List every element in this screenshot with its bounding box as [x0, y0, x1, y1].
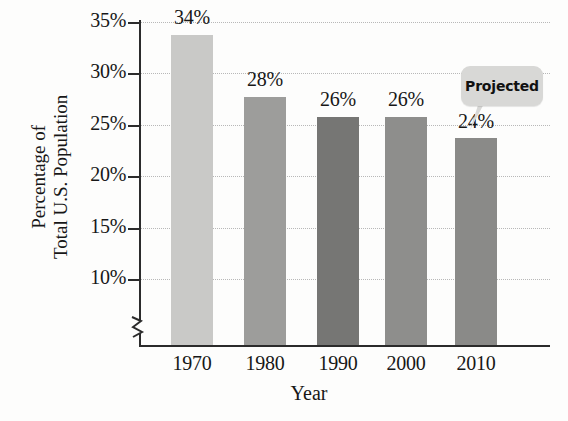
- axis-break-icon: [130, 316, 150, 338]
- x-tick-label-1980: 1980: [229, 352, 301, 375]
- y-tick-20: [128, 176, 139, 178]
- y-axis-title-line2: Total U.S. Population: [50, 67, 72, 287]
- bar-chart: 34% 28% 26% 26% 24% 35% 30% 25% 20% 15% …: [0, 0, 568, 421]
- bar-value-label-1970: 34%: [156, 6, 228, 29]
- y-tick-25: [128, 125, 139, 127]
- bar-value-label-1990: 26%: [302, 88, 374, 111]
- y-tick-label-35: 35%: [60, 9, 126, 32]
- x-tick-label-2010: 2010: [440, 352, 512, 375]
- y-axis-line: [139, 20, 141, 320]
- bar-1980[interactable]: [244, 97, 286, 346]
- x-tick-label-1990: 1990: [302, 352, 374, 375]
- projected-callout[interactable]: Projected: [461, 66, 543, 106]
- bar-2000[interactable]: [385, 117, 427, 346]
- y-tick-15: [128, 228, 139, 230]
- x-axis-title-text: Year: [291, 382, 328, 404]
- y-axis-title: Percentage of Total U.S. Population: [28, 67, 72, 287]
- bar-value-label-1980: 28%: [229, 68, 301, 91]
- x-tick-label-1970: 1970: [156, 352, 228, 375]
- x-tick-label-2000: 2000: [370, 352, 442, 375]
- y-tick-35: [128, 22, 139, 24]
- bar-1990[interactable]: [317, 117, 359, 346]
- y-tick-10: [128, 279, 139, 281]
- y-tick-30: [128, 73, 139, 75]
- y-axis-title-line1: Percentage of: [28, 67, 50, 287]
- bar-1970[interactable]: [171, 35, 213, 346]
- bar-value-label-2000: 26%: [370, 88, 442, 111]
- projected-callout-label: Projected: [461, 66, 543, 106]
- x-axis-line: [139, 345, 550, 347]
- x-axis-title: Year: [0, 382, 568, 405]
- bar-2010[interactable]: [455, 138, 497, 346]
